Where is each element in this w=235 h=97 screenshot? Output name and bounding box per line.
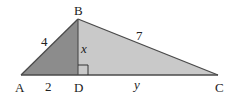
- vertex-label-a: A: [15, 80, 25, 95]
- length-label-bc: 7: [136, 28, 143, 43]
- length-label-ad: 2: [45, 79, 52, 94]
- length-label-ab: 4: [41, 34, 48, 49]
- triangle-diagram: B A D C 4 7 x 2 y: [0, 0, 235, 97]
- vertex-label-c: C: [215, 80, 224, 95]
- length-label-bd: x: [80, 41, 87, 56]
- vertex-label-d: D: [74, 80, 83, 95]
- vertex-label-b: B: [74, 3, 83, 18]
- length-label-dc: y: [132, 77, 140, 92]
